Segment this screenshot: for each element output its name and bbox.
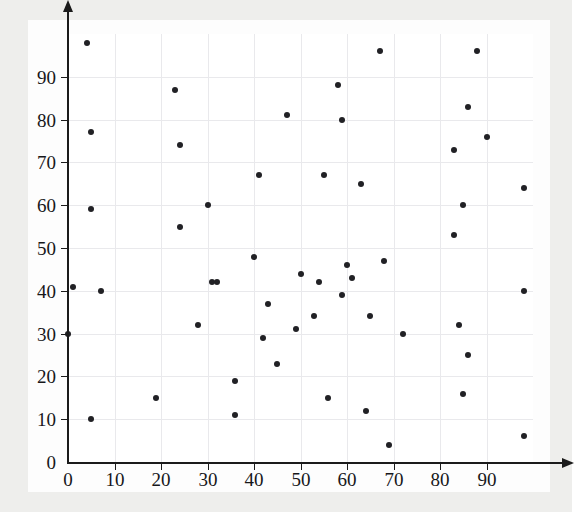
data-point (284, 112, 290, 118)
data-point (377, 48, 383, 54)
data-point (325, 395, 331, 401)
data-point (293, 326, 299, 332)
y-axis-tick (61, 334, 67, 335)
data-point (205, 202, 211, 208)
data-point (153, 395, 159, 401)
y-axis-tick-label: 90 (37, 68, 56, 87)
x-axis-arrow-icon (562, 458, 574, 468)
data-point (339, 292, 345, 298)
y-axis-tick-label: 10 (37, 410, 56, 429)
data-point (521, 433, 527, 439)
y-axis-tick (61, 248, 67, 249)
data-point (214, 279, 220, 285)
y-axis-tick (61, 291, 67, 292)
gridline-horizontal (68, 419, 533, 420)
y-axis-tick-label: 40 (37, 282, 56, 301)
data-point (172, 87, 178, 93)
data-point (177, 142, 183, 148)
data-point (311, 313, 317, 319)
gridline-horizontal (68, 77, 533, 78)
y-axis-tick-label: 80 (37, 111, 56, 130)
x-axis-tick-label: 30 (199, 470, 218, 489)
data-point (177, 224, 183, 230)
plot-area (68, 34, 533, 462)
y-axis-tick-label: 20 (37, 367, 56, 386)
data-point (88, 206, 94, 212)
gridline-horizontal (68, 162, 533, 163)
data-point (521, 288, 527, 294)
x-axis-tick-label: 90 (478, 470, 497, 489)
y-axis-arrow-icon (63, 0, 73, 12)
x-axis-tick-label: 50 (292, 470, 311, 489)
data-point (349, 275, 355, 281)
y-axis-tick-label: 30 (37, 325, 56, 344)
data-point (70, 284, 76, 290)
data-point (474, 48, 480, 54)
x-axis-tick-label: 0 (63, 470, 73, 489)
data-point (521, 185, 527, 191)
data-point (321, 172, 327, 178)
data-point (265, 301, 271, 307)
gridline-horizontal (68, 291, 533, 292)
data-point (88, 129, 94, 135)
y-axis-tick (61, 205, 67, 206)
data-point (98, 288, 104, 294)
x-axis-tick-label: 10 (106, 470, 125, 489)
data-point (465, 352, 471, 358)
data-point (316, 279, 322, 285)
data-point (251, 254, 257, 260)
y-axis-tick (61, 419, 67, 420)
data-point (465, 104, 471, 110)
data-point (381, 258, 387, 264)
y-axis-tick-label: 60 (37, 196, 56, 215)
gridline-horizontal (68, 334, 533, 335)
x-axis-tick-label: 70 (385, 470, 404, 489)
data-point (232, 412, 238, 418)
y-axis-tick-label: 50 (37, 239, 56, 258)
y-axis-tick (61, 120, 67, 121)
data-point (274, 361, 280, 367)
data-point (386, 442, 392, 448)
data-point (260, 335, 266, 341)
data-point (232, 378, 238, 384)
x-axis-tick-label: 40 (245, 470, 264, 489)
data-point (298, 271, 304, 277)
data-point (335, 82, 341, 88)
data-point (84, 40, 90, 46)
data-point (460, 391, 466, 397)
x-axis-tick-label: 60 (338, 470, 357, 489)
y-axis-tick-label: 70 (37, 153, 56, 172)
y-axis-tick (61, 376, 67, 377)
data-point (451, 232, 457, 238)
y-axis-tick-label: 0 (47, 453, 57, 472)
data-point (367, 313, 373, 319)
y-axis-line (67, 12, 69, 462)
data-point (460, 202, 466, 208)
y-axis-tick (61, 162, 67, 163)
x-axis-tick-label: 20 (152, 470, 171, 489)
gridline-horizontal (68, 376, 533, 377)
data-point (344, 262, 350, 268)
gridline-horizontal (68, 248, 533, 249)
data-point (256, 172, 262, 178)
data-point (339, 117, 345, 123)
data-point (451, 147, 457, 153)
data-point (400, 331, 406, 337)
gridline-horizontal (68, 120, 533, 121)
data-point (456, 322, 462, 328)
data-point (88, 416, 94, 422)
x-axis-tick-label: 80 (431, 470, 450, 489)
y-axis-tick (61, 77, 67, 78)
data-point (484, 134, 490, 140)
data-point (195, 322, 201, 328)
data-point (358, 181, 364, 187)
plot-paper: 01020304050607080900102030405060708090 (28, 20, 550, 492)
data-point (363, 408, 369, 414)
